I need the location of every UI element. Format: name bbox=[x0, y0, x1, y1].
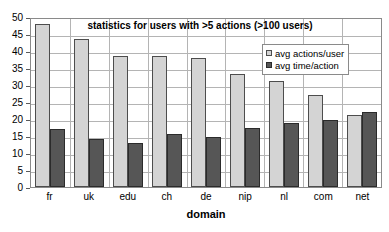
x-tick-label: com bbox=[304, 190, 343, 206]
bar[interactable] bbox=[308, 95, 323, 187]
y-tick-label: 15 bbox=[12, 132, 23, 142]
x-tick-label: nip bbox=[226, 190, 265, 206]
legend-item[interactable]: avg actions/user bbox=[266, 47, 344, 59]
bar[interactable] bbox=[269, 81, 284, 187]
legend-item-label: avg time/action bbox=[275, 60, 339, 71]
x-tick-label: ch bbox=[147, 190, 186, 206]
bar[interactable] bbox=[230, 74, 245, 187]
y-tick-mark bbox=[26, 188, 30, 189]
y-tick-label: 10 bbox=[12, 149, 23, 159]
x-axis-title: domain bbox=[30, 208, 382, 221]
y-tick-label: 0 bbox=[17, 183, 23, 193]
bar[interactable] bbox=[128, 143, 143, 187]
bar[interactable] bbox=[35, 24, 50, 187]
x-axis: frukeduchdenipnlcomnet bbox=[30, 190, 382, 206]
bar-chart: 50454035302520151050 statistics for user… bbox=[0, 0, 389, 232]
legend-swatch-icon bbox=[266, 62, 272, 68]
bar[interactable] bbox=[323, 120, 338, 187]
legend-item-label: avg actions/user bbox=[275, 48, 344, 59]
bar[interactable] bbox=[167, 134, 182, 187]
y-tick-label: 35 bbox=[12, 64, 23, 74]
y-tick-label: 45 bbox=[12, 30, 23, 40]
x-tick-label: edu bbox=[108, 190, 147, 206]
bar[interactable] bbox=[284, 123, 299, 187]
y-axis: 50454035302520151050 bbox=[0, 0, 26, 192]
y-tick-label: 50 bbox=[12, 13, 23, 23]
bar-group bbox=[148, 19, 187, 187]
bar[interactable] bbox=[191, 58, 206, 187]
y-tick-label: 40 bbox=[12, 47, 23, 57]
x-tick-label: net bbox=[343, 190, 382, 206]
legend: avg actions/user avg time/action bbox=[262, 44, 349, 75]
bar-group bbox=[109, 19, 148, 187]
chart-title: statistics for users with >5 actions (>1… bbox=[60, 20, 340, 32]
y-tick-label: 5 bbox=[17, 166, 23, 176]
y-tick-label: 25 bbox=[12, 98, 23, 108]
x-tick-label: uk bbox=[69, 190, 108, 206]
x-tick-label: fr bbox=[30, 190, 69, 206]
y-tick-label: 20 bbox=[12, 115, 23, 125]
bar[interactable] bbox=[362, 112, 377, 187]
bar[interactable] bbox=[50, 129, 65, 187]
bar[interactable] bbox=[206, 137, 221, 187]
bar-group bbox=[225, 19, 264, 187]
bar-group bbox=[70, 19, 109, 187]
x-tick-label: de bbox=[186, 190, 225, 206]
bar[interactable] bbox=[113, 56, 128, 187]
x-tick-label: nl bbox=[265, 190, 304, 206]
bar[interactable] bbox=[89, 139, 104, 187]
bar[interactable] bbox=[347, 115, 362, 187]
bar[interactable] bbox=[152, 56, 167, 187]
legend-item[interactable]: avg time/action bbox=[266, 59, 344, 71]
y-tick-label: 30 bbox=[12, 81, 23, 91]
bar-group bbox=[187, 19, 226, 187]
legend-swatch-icon bbox=[266, 50, 272, 56]
bar-group bbox=[31, 19, 70, 187]
bar[interactable] bbox=[74, 39, 89, 187]
bar[interactable] bbox=[245, 128, 260, 188]
